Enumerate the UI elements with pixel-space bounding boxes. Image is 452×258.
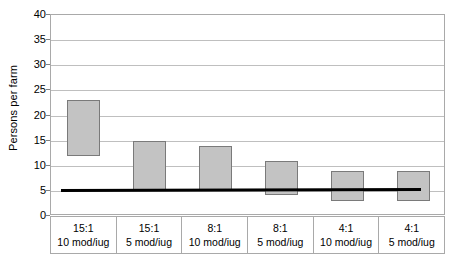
category-label-density: 10 mod/iug — [57, 235, 109, 249]
x-axis-category-table: 15:110 mod/iug15:15 mod/iug8:110 mod/iug… — [50, 216, 445, 254]
category-label-ratio: 4:1 — [404, 221, 419, 235]
gridline — [51, 90, 444, 91]
category-label-cell: 8:15 mod/iug — [248, 217, 314, 253]
category-label-density: 5 mod/iug — [126, 235, 172, 249]
bar — [133, 141, 166, 191]
category-label-density: 10 mod/iug — [189, 235, 241, 249]
category-label-cell: 8:110 mod/iug — [182, 217, 248, 253]
gridline — [51, 166, 444, 167]
chart-container: Persons per farm 0510152025303540 15:110… — [0, 0, 452, 258]
gridline — [51, 65, 444, 66]
category-label-cell: 4:15 mod/iug — [379, 217, 444, 253]
bar — [331, 171, 364, 201]
category-label-ratio: 8:1 — [207, 221, 222, 235]
gridline — [51, 141, 444, 142]
y-axis-tick-label: 40 — [22, 9, 46, 20]
plot-area — [50, 14, 445, 215]
y-axis-title-text: Persons per farm — [7, 65, 19, 151]
y-axis-tick-label: 25 — [22, 84, 46, 95]
y-axis-tick-label: 15 — [22, 134, 46, 145]
category-label-ratio: 4:1 — [339, 221, 354, 235]
category-label-cell: 4:110 mod/iug — [314, 217, 380, 253]
category-label-density: 10 mod/iug — [320, 235, 372, 249]
y-axis-tick-label: 35 — [22, 34, 46, 45]
y-axis-tick-label: 5 — [22, 184, 46, 195]
category-label-density: 5 mod/iug — [389, 235, 435, 249]
y-axis-tick-label: 30 — [22, 59, 46, 70]
y-axis-tick-label: 20 — [22, 109, 46, 120]
bar — [67, 100, 100, 155]
category-label-cell: 15:110 mod/iug — [51, 217, 117, 253]
category-label-density: 5 mod/iug — [257, 235, 303, 249]
bar — [199, 146, 232, 191]
gridline — [51, 116, 444, 117]
y-axis-tick-labels: 0510152025303540 — [20, 0, 46, 258]
y-axis-tick-label: 10 — [22, 159, 46, 170]
y-axis-tick-label: 0 — [22, 210, 46, 221]
bar — [397, 171, 430, 201]
category-label-ratio: 8:1 — [273, 221, 288, 235]
category-label-cell: 15:15 mod/iug — [117, 217, 183, 253]
category-label-ratio: 15:1 — [73, 221, 93, 235]
gridline — [51, 40, 444, 41]
category-label-ratio: 15:1 — [139, 221, 159, 235]
